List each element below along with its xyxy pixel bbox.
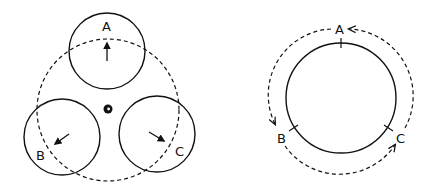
label-a-left: A — [102, 19, 111, 34]
label-c-left: C — [175, 144, 184, 159]
flow-arrow-c-to-a-icon — [349, 29, 413, 128]
center-dot-icon — [104, 105, 113, 114]
label-c-right: C — [396, 131, 405, 146]
right-diagram: A B C — [268, 22, 413, 174]
circle-a-group: A — [69, 13, 145, 89]
arrow-c-icon — [149, 132, 164, 141]
flow-arrow-b-to-c-icon — [285, 145, 395, 174]
diagram-canvas: A B C A B C — [0, 0, 431, 188]
solid-ring — [286, 43, 396, 153]
flow-arrow-a-to-b-icon — [268, 29, 331, 124]
label-b-right: B — [277, 131, 286, 146]
left-diagram: A B C — [24, 13, 195, 181]
arrow-b-icon — [55, 134, 69, 144]
label-b-left: B — [36, 148, 45, 163]
label-a-right: A — [335, 22, 344, 37]
